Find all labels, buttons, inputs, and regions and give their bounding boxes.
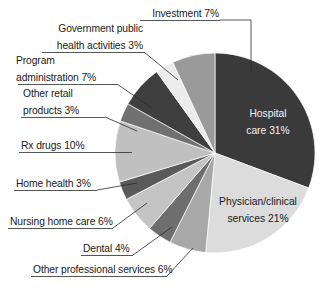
pie-label-other-retail-products-line2: products 3% — [23, 105, 79, 116]
pie-label-nursing-home-care: Nursing home care 6% — [10, 216, 113, 227]
pie-label-program-administration-line1: Program — [16, 55, 55, 66]
pie-label-hospital-care-line1: Hospital — [249, 108, 286, 119]
pie-chart-svg: Investment 7% Government public health a… — [0, 0, 331, 295]
pie-label-other-professional-services: Other professional services 6% — [33, 264, 173, 275]
pie-label-government-public-health-line1: Government public — [58, 23, 143, 34]
pie-label-government-public-health-line2: health activities 3% — [57, 40, 143, 51]
pie-label-home-health: Home health 3% — [16, 178, 91, 189]
pie-chart-container: Investment 7% Government public health a… — [0, 0, 331, 295]
pie-label-rx-drugs: Rx drugs 10% — [21, 140, 84, 151]
pie-label-program-administration-line2: administration 7% — [16, 72, 96, 83]
pie-label-dental: Dental 4% — [83, 243, 130, 254]
pie-label-hospital-care-line2: care 31% — [246, 125, 290, 136]
pie-label-physician-clinical-line1: Physician/clinical — [219, 196, 297, 207]
pie-label-other-retail-products-line1: Other retail — [23, 88, 73, 99]
pie-label-investment: Investment 7% — [152, 8, 219, 19]
pie-label-physician-clinical-line2: services 21% — [227, 213, 288, 224]
